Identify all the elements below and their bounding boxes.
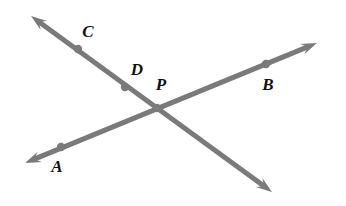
line-through-C-D-P-shaft bbox=[38, 21, 265, 187]
lines-layer bbox=[25, 16, 317, 192]
point-d-dot bbox=[121, 83, 129, 91]
point-b-label: B bbox=[262, 76, 273, 93]
point-c-label: C bbox=[82, 23, 93, 40]
point-a-dot bbox=[57, 143, 65, 151]
point-a-label: A bbox=[51, 158, 62, 175]
point-b-dot bbox=[262, 60, 270, 68]
point-c-dot bbox=[74, 45, 82, 53]
geometry-figure: CDPBA bbox=[0, 0, 346, 206]
point-p-label: P bbox=[156, 76, 166, 93]
point-p-dot bbox=[153, 104, 161, 112]
point-d-label: D bbox=[131, 61, 143, 78]
